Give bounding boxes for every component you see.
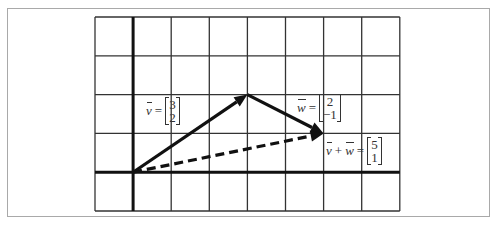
vector-grid [0, 0, 498, 227]
grid-lines [95, 17, 400, 211]
label-sum: v + w = 5 1 [326, 137, 382, 165]
w-symbol: w [345, 143, 354, 159]
w-matrix: 2 −1 [319, 94, 341, 122]
v-matrix: 3 2 [165, 97, 180, 125]
equals-sign: = [155, 103, 162, 119]
equals-sign: = [309, 100, 316, 116]
sum-y: 1 [371, 151, 378, 164]
v-y: 2 [169, 111, 176, 124]
equals-sign: = [357, 143, 364, 159]
v-symbol: v [146, 103, 152, 119]
plus-sign: + [335, 143, 342, 159]
vector-v-arrowhead [234, 95, 248, 107]
v-symbol: v [326, 143, 332, 159]
w-symbol: w [297, 100, 306, 116]
w-y: −1 [323, 108, 337, 121]
label-w: w = 2 −1 [297, 94, 341, 122]
sum-matrix: 5 1 [367, 137, 382, 165]
label-v: v = 3 2 [146, 97, 180, 125]
